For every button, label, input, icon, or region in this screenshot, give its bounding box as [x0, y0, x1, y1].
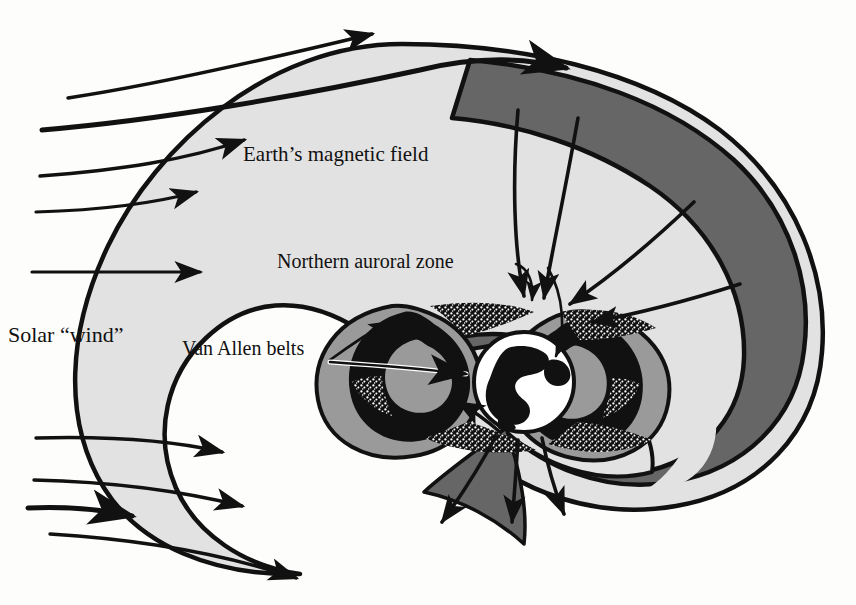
label-solar-wind: Solar “wind” — [8, 322, 123, 348]
label-van-allen-belts: Van Allen belts — [182, 337, 304, 360]
diagram-canvas: Solar “wind” Earth’s magnetic field Nort… — [0, 0, 856, 605]
label-earth-magnetic-field: Earth’s magnetic field — [243, 142, 428, 167]
magnetosphere-diagram — [0, 0, 856, 605]
label-northern-auroral-zone: Northern auroral zone — [277, 250, 454, 273]
